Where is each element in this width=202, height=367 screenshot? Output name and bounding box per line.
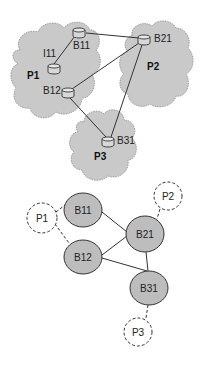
dashed-p1-b12 [55, 224, 69, 243]
node-b12: B12 [64, 240, 102, 274]
peer-p2: P2 [154, 182, 182, 210]
cylinder-b31 [102, 137, 114, 147]
node-b21-label: B21 [136, 229, 154, 240]
cylinder-i11 [48, 64, 60, 74]
peer-p3-label: P3 [132, 327, 145, 338]
cylinder-b11 [73, 28, 85, 38]
cloud-topology: B11 I11 B12 B21 B31 P1 P2 P3 [11, 21, 193, 180]
cylinder-b12 [62, 88, 74, 98]
label-b21: B21 [154, 33, 172, 44]
peer-p2-label: P2 [162, 191, 175, 202]
label-cloud-p2: P2 [147, 61, 160, 72]
node-b11-label: B11 [74, 205, 91, 216]
cylinder-b21 [138, 35, 150, 45]
label-b11: B11 [73, 40, 90, 51]
peer-p3: P3 [124, 318, 152, 346]
peer-p1: P1 [27, 203, 57, 233]
edge-b12-b21 [102, 236, 127, 255]
node-b21: B21 [126, 216, 164, 252]
node-b11: B11 [64, 193, 102, 227]
node-b31-label: B31 [140, 283, 158, 294]
node-b31: B31 [130, 271, 168, 305]
edge-b21-b31 [146, 252, 148, 271]
graph-abstraction: P1 P2 P3 B11 B12 B21 B31 [27, 182, 182, 346]
label-cloud-p1: P1 [27, 70, 40, 81]
node-b12-label: B12 [74, 252, 92, 263]
edge-b11-b21 [102, 212, 127, 232]
label-b12: B12 [43, 85, 61, 96]
label-cloud-p3: P3 [94, 151, 107, 162]
label-i11: I11 [43, 48, 57, 59]
edge-b12-b31 [102, 258, 147, 271]
peer-p1-label: P1 [36, 213, 49, 224]
dashed-p2-b21 [157, 209, 160, 219]
network-diagram: B11 I11 B12 B21 B31 P1 P2 P3 P1 [0, 0, 202, 367]
label-b31: B31 [117, 135, 135, 146]
dashed-p3-b31 [146, 305, 148, 318]
